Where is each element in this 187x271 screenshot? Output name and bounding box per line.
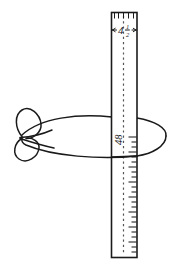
rope-loop-front: [15, 109, 166, 161]
dimension-whole-number: 4: [118, 24, 124, 36]
ruler-mid-label: 48: [113, 134, 124, 145]
figure-canvas: 4 1 2 48: [0, 0, 187, 271]
illustration-svg: 4 1 2 48: [0, 0, 187, 271]
ruler: 4 1 2 48: [112, 13, 138, 258]
dimension-fraction-numerator: 1: [126, 23, 129, 30]
